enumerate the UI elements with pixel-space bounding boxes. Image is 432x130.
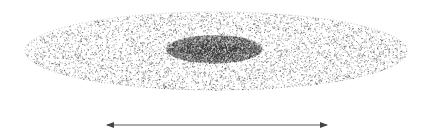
- galaxy-disk-figure: [0, 0, 432, 130]
- central-bulge: [166, 35, 263, 64]
- galaxy-diagram: [0, 0, 432, 130]
